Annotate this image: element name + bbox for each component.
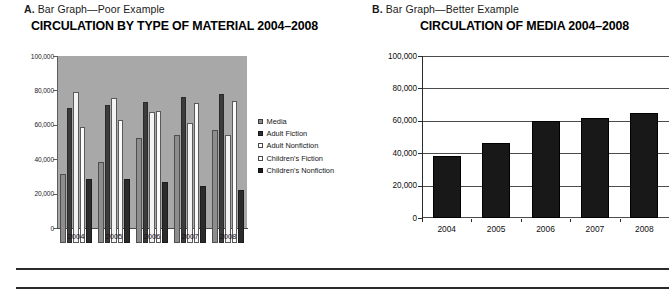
bar-a xyxy=(80,127,86,243)
bar-a xyxy=(174,135,180,243)
bar-a xyxy=(143,102,149,243)
legend-swatch-icon xyxy=(258,156,263,161)
y-tick-label-b: 20,000 xyxy=(393,181,417,190)
gridline-b xyxy=(422,56,669,57)
y-tick-mark-b xyxy=(418,88,422,89)
y-tick-mark-b xyxy=(418,186,422,187)
x-tick-label-b: 2005 xyxy=(471,224,520,234)
bar-b xyxy=(482,143,510,218)
bar-group-a xyxy=(212,71,243,243)
y-tick-label-b: 0 xyxy=(413,214,417,223)
bar-b xyxy=(581,118,609,218)
footer-divider-bottom xyxy=(16,287,669,289)
y-tick-label-b: 80,000 xyxy=(393,84,417,93)
legend-swatch-icon xyxy=(258,131,263,136)
bar-a xyxy=(111,98,117,243)
panel-a-caption-text: Bar Graph—Poor Example xyxy=(35,3,165,15)
chart-legend-a: MediaAdult FictionAdult NonfictionChildr… xyxy=(258,115,362,177)
legend-item: Media xyxy=(258,115,362,127)
bar-a xyxy=(136,138,142,243)
bar-group-a xyxy=(98,71,129,243)
chart-poor-example: 100,00080,00060,00040,00020,0000 2004200… xyxy=(18,56,248,243)
legend-item-label: Children's Fiction xyxy=(267,154,323,163)
x-tick-label-b: 2008 xyxy=(620,224,669,234)
bar-group-a xyxy=(136,71,167,243)
bar-b xyxy=(433,156,461,218)
y-tick-mark-b xyxy=(418,121,422,122)
bar-a xyxy=(219,94,225,243)
legend-item-label: Media xyxy=(267,117,287,126)
y-tick-label-a: 20,000 xyxy=(34,190,54,197)
y-tick-mark-a xyxy=(53,159,57,160)
y-tick-mark-a xyxy=(53,125,57,126)
x-tick-label-b: 2007 xyxy=(570,224,619,234)
x-tick-label-a: 2005 xyxy=(95,232,133,241)
y-tick-mark-a xyxy=(53,228,57,229)
legend-item-label: Children's Nonfiction xyxy=(267,166,335,175)
x-tick-mark-b xyxy=(471,219,472,222)
panel-a-letter: A. xyxy=(24,3,35,15)
bar-a xyxy=(232,101,238,243)
legend-swatch-icon xyxy=(258,168,263,173)
bar-group-a xyxy=(60,71,91,243)
x-tick-label-a: 2004 xyxy=(57,232,95,241)
x-tick-mark-b xyxy=(422,219,423,222)
bar-a xyxy=(73,92,79,243)
y-tick-mark-a xyxy=(53,90,57,91)
bar-a xyxy=(156,111,162,243)
legend-swatch-icon xyxy=(258,119,263,124)
bar-b xyxy=(532,121,560,218)
bar-a xyxy=(67,108,73,243)
x-tick-mark-b xyxy=(521,219,522,222)
bar-a xyxy=(118,120,124,243)
panel-b-caption: B. Bar Graph—Better Example xyxy=(372,3,519,16)
legend-item: Children's Nonfiction xyxy=(258,165,362,177)
plot-area-b xyxy=(422,56,669,218)
x-tick-label-b: 2006 xyxy=(521,224,570,234)
bar-a xyxy=(194,103,200,243)
y-tick-mark-b xyxy=(418,56,422,57)
y-tick-label-a: 100,000 xyxy=(31,53,54,60)
x-tick-label-a: 2007 xyxy=(171,232,209,241)
panel-b-letter: B. xyxy=(372,3,383,15)
x-tick-label-b: 2004 xyxy=(422,224,471,234)
legend-swatch-icon xyxy=(258,143,263,148)
bar-a xyxy=(98,162,104,243)
bar-a xyxy=(225,135,231,243)
bar-group-a xyxy=(174,71,205,243)
y-tick-mark-a xyxy=(53,194,57,195)
y-tick-label-b: 60,000 xyxy=(393,116,417,125)
y-tick-label-b: 40,000 xyxy=(393,149,417,158)
legend-item: Adult Nonfiction xyxy=(258,140,362,152)
panel-b-caption-text: Bar Graph—Better Example xyxy=(383,3,519,15)
panel-a-caption: A. Bar Graph—Poor Example xyxy=(24,3,165,16)
bar-a xyxy=(149,112,155,243)
x-tick-label-a: 2006 xyxy=(133,232,171,241)
legend-item-label: Adult Nonfiction xyxy=(267,141,319,150)
y-tick-label-a: 60,000 xyxy=(34,121,54,128)
legend-item: Adult Fiction xyxy=(258,127,362,139)
panel-better-example: B. Bar Graph—Better Example CIRCULATION … xyxy=(370,0,669,260)
y-axis-line-b xyxy=(422,56,423,219)
y-tick-mark-b xyxy=(418,153,422,154)
bar-a xyxy=(181,97,187,243)
y-tick-label-a: 80,000 xyxy=(34,87,54,94)
chart-a-title: CIRCULATION BY TYPE OF MATERIAL 2004–200… xyxy=(31,19,318,33)
legend-item: Children's Fiction xyxy=(258,152,362,164)
bar-a xyxy=(105,105,111,243)
y-tick-label-a: 40,000 xyxy=(34,156,54,163)
chart-b-title: CIRCULATION OF MEDIA 2004–2008 xyxy=(420,19,629,33)
gridline-b xyxy=(422,88,669,89)
x-tick-mark-b xyxy=(570,219,571,222)
chart-better-example: 100,00080,00060,00040,00020,0000 2004200… xyxy=(372,56,669,243)
y-tick-mark-a xyxy=(53,56,57,57)
x-tick-label-a: 2008 xyxy=(209,232,247,241)
bar-a xyxy=(187,123,193,243)
bar-a xyxy=(212,130,218,243)
bar-b xyxy=(630,113,658,218)
x-tick-mark-b xyxy=(620,219,621,222)
y-tick-label-b: 100,000 xyxy=(388,52,417,61)
panel-poor-example: A. Bar Graph—Poor Example CIRCULATION BY… xyxy=(0,0,370,260)
legend-item-label: Adult Fiction xyxy=(267,129,308,138)
footer-divider-top xyxy=(16,268,669,270)
